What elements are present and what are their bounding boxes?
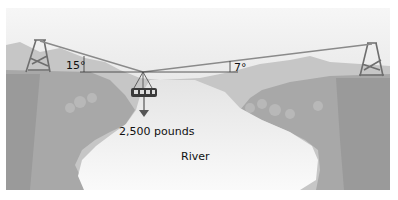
river-label: River [181, 150, 210, 163]
angle-label-right: 7° [234, 61, 247, 74]
weight-label: 2,500 pounds [119, 125, 194, 138]
diagram-canvas [0, 0, 398, 200]
angle-label-left: 15° [66, 59, 86, 72]
right-cliff-face [336, 78, 390, 190]
cable-car-diagram: 15° 7° 2,500 pounds River [0, 0, 398, 200]
